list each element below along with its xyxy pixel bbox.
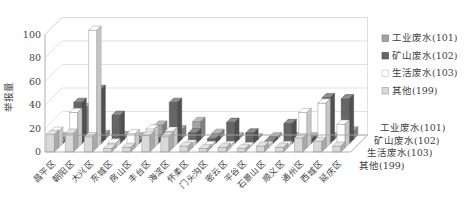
bar-face [199, 148, 207, 152]
bar-face [345, 120, 349, 148]
bar [314, 137, 326, 152]
series-axis-label: 生活废水(103) [367, 147, 433, 158]
y-axis-title: 举报量 [3, 82, 14, 112]
bar-face [314, 141, 322, 152]
legend-label: 生活废水(103) [392, 67, 458, 78]
bar-face [330, 93, 334, 143]
bar-face [275, 147, 283, 152]
bar-face [235, 118, 239, 143]
bar-face [154, 125, 158, 148]
bar-face [142, 136, 150, 152]
legend-swatch [382, 88, 389, 95]
y-tick-label: 20 [29, 123, 41, 134]
bar-face [326, 99, 330, 148]
bar-face [123, 147, 131, 152]
series-axis-label: 工业废水(101) [380, 122, 446, 133]
y-tick-label: 100 [23, 29, 41, 40]
bar [65, 129, 77, 152]
bar-face [97, 26, 101, 148]
3d-bar-chart: 020406080100举报量昌平区朝阳区大兴区东城区房山区丰台区海淀区怀柔区门… [0, 0, 464, 207]
bar [89, 26, 101, 148]
bar [46, 130, 58, 152]
bar-face [180, 146, 188, 152]
legend-label: 工业废水(101) [392, 32, 458, 43]
legend-label: 矿山废水(102) [392, 50, 458, 61]
bar-face [65, 133, 73, 152]
y-tick-label: 40 [29, 99, 41, 110]
bar-face [256, 146, 264, 152]
y-tick-label: 80 [29, 52, 41, 63]
bar-face [89, 30, 97, 148]
bar-face [78, 108, 82, 148]
bar-face [120, 111, 124, 143]
bar-face [104, 148, 112, 152]
bar-face [74, 129, 78, 152]
bar [246, 129, 258, 144]
legend-label: 其他(199) [392, 85, 438, 96]
chart-container: 020406080100举报量昌平区朝阳区大兴区东城区房山区丰台区海淀区怀柔区门… [0, 0, 464, 207]
bar [142, 131, 154, 152]
bar-face [246, 133, 254, 144]
y-tick-label: 0 [35, 146, 41, 157]
bar-face [227, 122, 235, 143]
bar-face [284, 124, 292, 144]
bar [227, 118, 239, 143]
bar-face [46, 134, 54, 152]
bar-face [333, 146, 341, 152]
y-tick-label: 60 [29, 76, 41, 87]
bar [295, 134, 307, 152]
legend-swatch [382, 70, 389, 77]
legend-swatch [382, 53, 389, 60]
legend-swatch [382, 35, 389, 42]
bar-face [84, 137, 92, 152]
series-axis-label: 矿山废水(102) [374, 135, 440, 146]
bar-face [218, 147, 226, 152]
series-axis-label: 其他(199) [359, 160, 405, 171]
bar-face [161, 137, 169, 152]
bar-face [307, 108, 311, 148]
bar-face [237, 148, 245, 152]
bar-face [295, 138, 303, 152]
bar-face [178, 98, 182, 143]
bar-face [349, 95, 353, 144]
